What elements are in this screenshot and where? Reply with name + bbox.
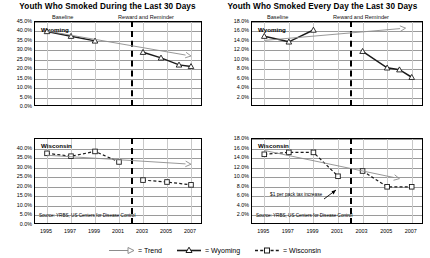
x-axis-tick-label: 2003	[356, 228, 368, 234]
data-point-marker	[360, 48, 366, 53]
y-axis-tick-label: 10.0%	[0, 84, 32, 90]
phase-label-reward: Reward and Reminder	[118, 14, 174, 20]
y-axis-tick-label: 12.0%	[215, 46, 249, 52]
y-axis-tick-label: 4.0%	[215, 202, 249, 208]
x-axis-tick-label: 1997	[64, 228, 76, 234]
y-axis-tick-label: 25.0%	[0, 173, 32, 179]
y-axis-tick-label: 6.0%	[215, 75, 249, 81]
y-axis-tick-label: 30.0%	[0, 164, 32, 170]
series-lines-bl	[35, 139, 202, 224]
y-axis-tick-label: 2.0%	[215, 94, 249, 100]
data-point-marker	[189, 183, 194, 188]
x-axis-labels-bl: 1995199719992001200320052007	[34, 226, 202, 238]
plot-area-bl: Wisconsin Source: YRBS, US Centers for D…	[34, 138, 202, 224]
series-trend	[47, 31, 191, 58]
wyoming-swatch-icon	[176, 246, 202, 255]
data-point-marker	[141, 178, 146, 183]
y-axis-tick-label: 40.0%	[0, 27, 32, 33]
panel-wyoming-past-30-days: Youth Who Smoked During the Last 30 Days…	[0, 0, 215, 130]
x-axis-tick-label: 2001	[331, 228, 343, 234]
data-point-marker	[117, 160, 122, 165]
y-axis-tick-label: 45.0%	[0, 18, 32, 24]
legend-label-wisconsin: = Wisconsin	[283, 247, 321, 254]
y-axis-tick-label: 8.0%	[215, 65, 249, 71]
y-axis-tick-label: 10.0%	[215, 173, 249, 179]
y-axis-tick-label: 30.0%	[0, 46, 32, 52]
data-point-marker	[165, 180, 170, 185]
y-axis-tick-label: 18.0%	[215, 135, 249, 141]
y-axis-tick-label: 6.0%	[215, 192, 249, 198]
trend-swatch-icon	[109, 246, 135, 255]
y-axis-tick-label: 4.0%	[215, 84, 249, 90]
data-point-marker	[140, 49, 146, 54]
data-point-marker	[409, 184, 414, 189]
plot-area-tl: Wyoming	[34, 21, 202, 106]
x-axis-tick-label: 2001	[112, 228, 124, 234]
y-axis-tick-label: 15.0%	[0, 192, 32, 198]
y-axis-tick-label: 35.0%	[0, 154, 32, 160]
chart-title: Youth Who Smoked Every Day the Last 30 D…	[215, 2, 430, 11]
x-axis-tick-label: 1995	[257, 228, 269, 234]
x-axis-labels-br: 1995199719992001200320052007	[251, 226, 423, 238]
data-point-marker	[311, 27, 317, 32]
series-wyoming-reward-and-reminder	[360, 48, 415, 79]
y-axis-tick-label: 40.0%	[0, 145, 32, 151]
series-wisconsin-baseline	[45, 149, 122, 164]
x-axis-tick-label: 1995	[40, 228, 52, 234]
legend-label-trend: = Trend	[138, 247, 162, 254]
x-axis-tick-label: 1999	[306, 228, 318, 234]
series-wisconsin-post	[141, 178, 194, 187]
y-axis-tick-label: 10.0%	[215, 56, 249, 62]
y-axis-tick-label: 0.0%	[0, 103, 32, 109]
y-axis-tick-label: 12.0%	[215, 164, 249, 170]
y-axis-tick-label: 8.0%	[215, 183, 249, 189]
legend-item-wyoming: = Wyoming	[176, 246, 240, 255]
y-axis-tick-label: 0.0%	[0, 221, 32, 227]
x-axis-tick-label: 1999	[88, 228, 100, 234]
y-axis-tick-label: 16.0%	[215, 27, 249, 33]
series-trend	[264, 150, 399, 180]
annotation-arrowhead-icon	[332, 190, 337, 194]
y-axis-tick-label: 20.0%	[0, 183, 32, 189]
panel-wyoming-every-day: Youth Who Smoked Every Day the Last 30 D…	[215, 0, 430, 130]
series-wyoming-baseline	[44, 29, 98, 43]
x-axis-tick-label: 2005	[380, 228, 392, 234]
chart-title: Youth Who Smoked During the Last 30 Days	[0, 2, 215, 11]
data-point-marker	[93, 149, 98, 154]
data-point-marker	[385, 184, 390, 189]
y-axis-tick-label: 15.0%	[0, 75, 32, 81]
y-axis-tick-label: 25.0%	[0, 56, 32, 62]
data-point-marker	[336, 174, 341, 179]
y-axis-tick-label: 10.0%	[0, 202, 32, 208]
series-lines-br	[252, 139, 423, 224]
y-axis-tick-label: 2.0%	[215, 211, 249, 217]
legend-item-wisconsin: = Wisconsin	[254, 246, 321, 255]
x-axis-tick-label: 2007	[405, 228, 417, 234]
series-lines-tr	[252, 22, 423, 106]
phase-label-reward: Reward and Reminder	[333, 14, 389, 20]
x-axis-tick-label: 2007	[184, 228, 196, 234]
y-axis-tick-label: 18.0%	[215, 18, 249, 24]
figure-root: Youth Who Smoked During the Last 30 Days…	[0, 0, 430, 258]
y-axis-tick-label: 16.0%	[215, 145, 249, 151]
legend-item-trend: = Trend	[109, 246, 162, 255]
panel-wisconsin-every-day: Wisconsin $1 per pack tax increase Sourc…	[215, 122, 430, 244]
y-axis-tick-label: 20.0%	[0, 65, 32, 71]
y-axis-tick-label: 14.0%	[215, 154, 249, 160]
data-point-marker	[262, 152, 267, 157]
data-point-marker	[311, 150, 316, 155]
x-axis-tick-label: 1997	[282, 228, 294, 234]
wisconsin-swatch-icon	[254, 246, 280, 255]
x-axis-tick-label: 2003	[136, 228, 148, 234]
y-axis-tick-label: 35.0%	[0, 37, 32, 43]
plot-area-tr: Wyoming	[251, 21, 423, 106]
figure-legend: = Trend = Wyoming = Wisconsin	[0, 243, 430, 258]
series-lines-tl	[35, 22, 202, 106]
legend-label-wyoming: = Wyoming	[205, 247, 240, 254]
series-trend	[264, 26, 405, 41]
series-wyoming-baseline	[261, 27, 316, 44]
x-axis-tick-label: 2005	[160, 228, 172, 234]
panel-wisconsin-past-30-days: Wisconsin Source: YRBS, US Centers for D…	[0, 122, 215, 244]
y-axis-tick-label: 5.0%	[0, 211, 32, 217]
phase-label-baseline: Baseline	[267, 14, 288, 20]
